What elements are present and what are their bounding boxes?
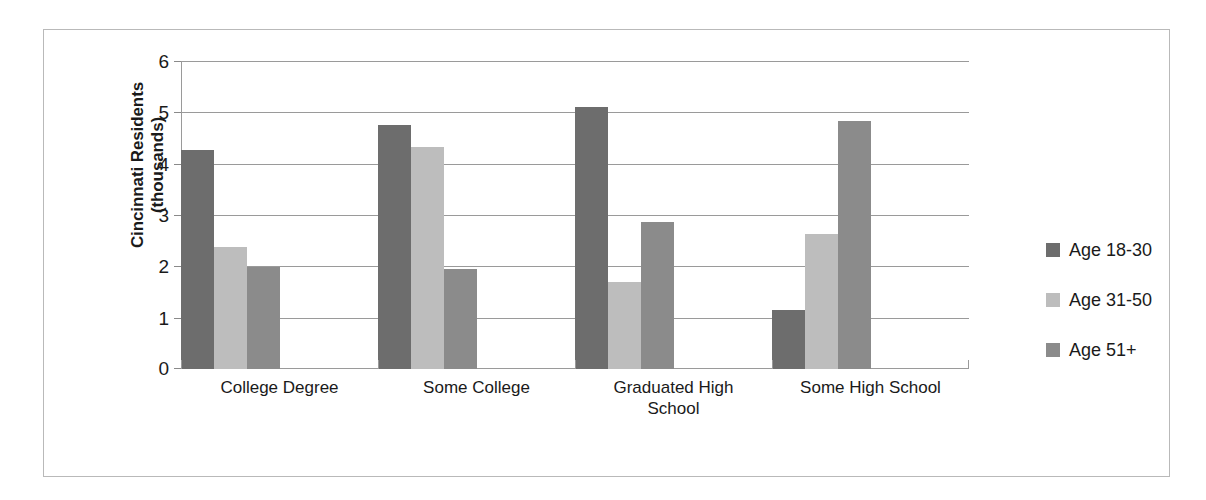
y-tick-label-4: 4 <box>158 154 169 173</box>
x-axis-label-graduated-high-school: Graduated High School <box>575 378 772 419</box>
y-tick-mark-1 <box>174 318 181 319</box>
legend: Age 18-30 Age 31-50 Age 51+ <box>1046 225 1152 375</box>
legend-label-age-31-50: Age 31-50 <box>1069 290 1152 311</box>
bar-graduated-high-school-age-31-50[interactable] <box>608 282 641 369</box>
bar-graduated-high-school-age-51-plus[interactable] <box>641 222 674 369</box>
x-axis-label-line: Some High School <box>774 378 967 399</box>
x-axis-label-line: School <box>577 399 770 420</box>
y-tick-mark-3 <box>174 215 181 216</box>
y-tick-mark-0 <box>174 368 181 369</box>
x-axis-labels: College Degree Some College Graduated Hi… <box>181 378 969 419</box>
category-tick-1 <box>378 360 379 369</box>
y-tick-label-1: 1 <box>158 308 169 327</box>
bar-group-college-degree <box>181 61 378 369</box>
y-tick-label-5: 5 <box>158 103 169 122</box>
legend-item-age-31-50[interactable]: Age 31-50 <box>1046 275 1152 325</box>
y-tick-label-0: 0 <box>158 359 169 378</box>
y-tick-mark-5 <box>174 112 181 113</box>
bar-some-high-school-age-31-50[interactable] <box>805 234 838 369</box>
x-axis-label-some-college: Some College <box>378 378 575 419</box>
bar-college-degree-age-51-plus[interactable] <box>247 267 280 369</box>
bar-group-some-college <box>378 61 575 369</box>
y-tick-label-2: 2 <box>158 257 169 276</box>
y-axis-title-line-1: Cincinnati Residents <box>128 82 148 248</box>
x-axis-label-line: College Degree <box>183 378 376 399</box>
plot-area: 6 5 4 3 2 1 0 <box>181 61 969 369</box>
bar-college-degree-age-18-30[interactable] <box>181 150 214 369</box>
y-tick-label-6: 6 <box>158 52 169 71</box>
bar-some-college-age-51-plus[interactable] <box>444 269 477 369</box>
bar-graduated-high-school-age-18-30[interactable] <box>575 107 608 369</box>
y-tick-mark-2 <box>174 266 181 267</box>
x-axis-label-some-high-school: Some High School <box>772 378 969 419</box>
bar-college-degree-age-31-50[interactable] <box>214 247 247 369</box>
x-axis-label-line: Some College <box>380 378 573 399</box>
legend-swatch-icon-age-18-30 <box>1046 243 1060 257</box>
category-tick-3 <box>772 360 773 369</box>
category-tick-2 <box>575 360 576 369</box>
y-tick-mark-6 <box>174 61 181 62</box>
chart-frame: Cincinnati Residents (thousands) 6 5 4 3… <box>43 29 1170 477</box>
legend-swatch-icon-age-31-50 <box>1046 293 1060 307</box>
legend-item-age-18-30[interactable]: Age 18-30 <box>1046 225 1152 275</box>
legend-item-age-51-plus[interactable]: Age 51+ <box>1046 325 1152 375</box>
legend-swatch-icon-age-51-plus <box>1046 343 1060 357</box>
legend-label-age-51-plus: Age 51+ <box>1069 340 1137 361</box>
y-tick-label-3: 3 <box>158 206 169 225</box>
category-tick-0 <box>181 360 182 369</box>
x-axis-label-line: Graduated High <box>577 378 770 399</box>
bar-group-some-high-school <box>772 61 969 369</box>
y-tick-mark-4 <box>174 164 181 165</box>
bar-group-graduated-high-school <box>575 61 772 369</box>
bar-some-high-school-age-51-plus[interactable] <box>838 121 871 369</box>
bar-some-college-age-18-30[interactable] <box>378 125 411 369</box>
x-axis-label-college-degree: College Degree <box>181 378 378 419</box>
bar-some-college-age-31-50[interactable] <box>411 147 444 369</box>
category-tick-4 <box>968 360 969 369</box>
bars-layer <box>181 61 969 369</box>
bar-some-high-school-age-18-30[interactable] <box>772 310 805 369</box>
legend-label-age-18-30: Age 18-30 <box>1069 240 1152 261</box>
